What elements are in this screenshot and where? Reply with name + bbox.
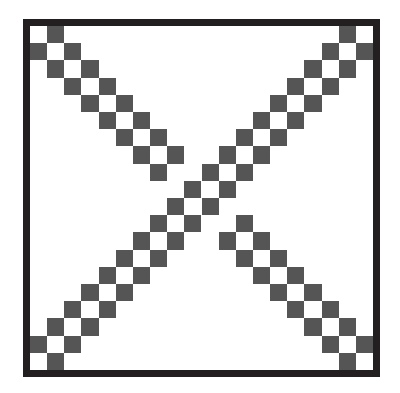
pixel-cell	[270, 129, 287, 146]
pixel-cell	[64, 43, 81, 60]
pixel-cell	[150, 215, 167, 232]
pixel-cell	[47, 26, 64, 43]
pixel-cell	[270, 250, 287, 267]
pixel-cell	[47, 60, 64, 77]
pixel-cell	[116, 250, 133, 267]
pixel-cell	[133, 267, 150, 284]
pixel-cell	[219, 181, 236, 198]
pixel-cell	[339, 318, 356, 335]
pixel-cell	[219, 146, 236, 163]
pixel-cell	[356, 336, 373, 353]
pixel-cell	[150, 129, 167, 146]
pixel-cell	[99, 78, 116, 95]
pixel-cell	[133, 146, 150, 163]
pixel-cell	[133, 112, 150, 129]
pixel-cell	[236, 250, 253, 267]
pixel-cell	[304, 95, 321, 112]
pixel-cell	[81, 60, 98, 77]
pixel-cell	[47, 318, 64, 335]
pixel-cell	[99, 301, 116, 318]
pixel-cell	[99, 112, 116, 129]
pixel-cell	[253, 112, 270, 129]
pixel-cell	[253, 267, 270, 284]
pixel-cell	[81, 284, 98, 301]
pixel-cell	[116, 284, 133, 301]
pixel-cell	[253, 146, 270, 163]
pixel-cell	[30, 43, 47, 60]
pixel-cell	[116, 95, 133, 112]
pixel-cell	[236, 164, 253, 181]
pixel-cell	[167, 232, 184, 249]
pixel-cell	[81, 95, 98, 112]
pixel-cell	[270, 284, 287, 301]
pixel-cell	[339, 353, 356, 370]
pixel-cell	[287, 267, 304, 284]
pixel-cell	[356, 43, 373, 60]
pixel-cell	[64, 301, 81, 318]
pixel-cell	[270, 95, 287, 112]
pixel-cell	[64, 336, 81, 353]
pixel-cell	[150, 250, 167, 267]
pixel-cell	[150, 164, 167, 181]
pixel-cell	[30, 336, 47, 353]
pixel-cell	[304, 318, 321, 335]
pixel-cell	[167, 198, 184, 215]
pixel-cell	[287, 78, 304, 95]
pixel-grid	[30, 26, 373, 370]
pixel-cell	[219, 232, 236, 249]
pixel-cell	[287, 301, 304, 318]
pixel-cell	[304, 284, 321, 301]
pixel-cell	[64, 78, 81, 95]
pixel-cell	[287, 112, 304, 129]
square-frame	[23, 19, 380, 377]
pixel-cell	[339, 26, 356, 43]
pixel-cell	[322, 336, 339, 353]
pixel-cell	[167, 146, 184, 163]
pixel-cell	[99, 267, 116, 284]
pixel-cell	[322, 78, 339, 95]
pixel-cell	[236, 215, 253, 232]
pixel-cell	[202, 198, 219, 215]
pixel-cell	[322, 43, 339, 60]
pixel-cell	[202, 164, 219, 181]
pixel-cell	[253, 232, 270, 249]
pixel-cell	[304, 60, 321, 77]
pixel-cell	[133, 232, 150, 249]
pixel-cell	[184, 181, 201, 198]
pixel-cell	[184, 215, 201, 232]
pixel-cell	[116, 129, 133, 146]
pixel-cell	[81, 318, 98, 335]
pixel-cell	[322, 301, 339, 318]
pixel-cell	[236, 129, 253, 146]
pixel-cell	[47, 353, 64, 370]
pixel-cell	[339, 60, 356, 77]
